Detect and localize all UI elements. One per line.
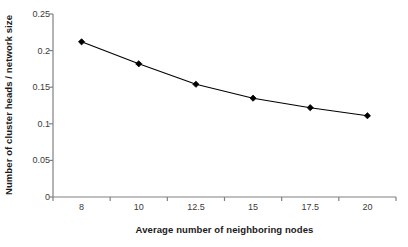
- chart-figure: Number of cluster heads / network size 0…: [0, 0, 408, 247]
- data-point-marker: [136, 61, 142, 67]
- data-point-marker: [364, 113, 370, 119]
- series-line: [82, 42, 368, 116]
- plot-area: [0, 0, 408, 247]
- data-point-marker: [193, 81, 199, 87]
- axes: [49, 14, 396, 201]
- data-point-marker: [250, 95, 256, 101]
- data-series: [78, 39, 370, 119]
- data-point-marker: [307, 105, 313, 111]
- data-point-marker: [78, 39, 84, 45]
